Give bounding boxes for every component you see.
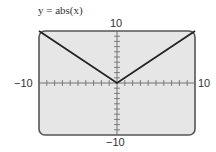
x-max-label: 10 (198, 77, 210, 89)
x-min-label: −10 (14, 77, 33, 89)
y-max-label: 10 (110, 17, 122, 29)
plot-area (0, 0, 216, 152)
y-min-label: −10 (106, 136, 125, 148)
